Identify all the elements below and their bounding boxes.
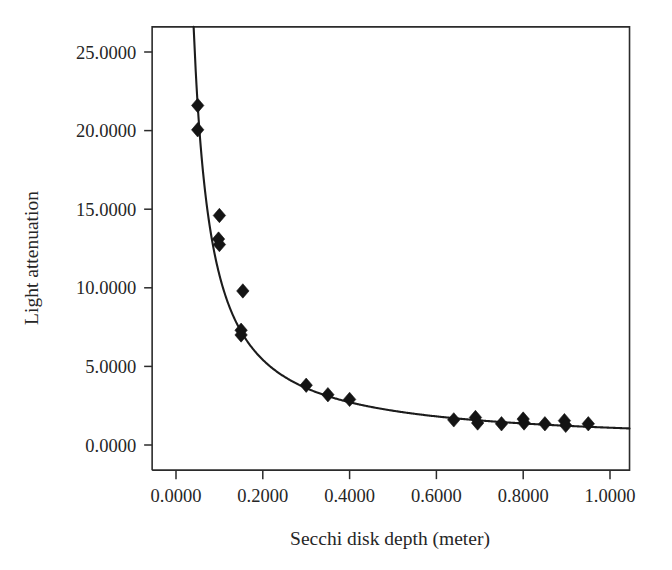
data-point-marker <box>322 387 334 401</box>
y-tick-labels: 0.00005.000010.000015.000020.000025.0000 <box>76 43 136 456</box>
y-tick-label: 5.0000 <box>85 357 136 377</box>
data-points-group <box>192 98 595 432</box>
plot-frame <box>152 27 629 470</box>
data-point-marker <box>343 392 355 406</box>
data-point-marker <box>192 123 204 137</box>
x-tick-marks <box>176 470 610 479</box>
x-tick-label: 1.0000 <box>585 486 636 506</box>
data-point-marker <box>539 417 551 431</box>
x-axis-title: Secchi disk depth (meter) <box>290 528 490 550</box>
y-tick-label: 0.0000 <box>85 436 136 456</box>
y-tick-label: 15.0000 <box>76 200 136 220</box>
y-axis-title: Light attenuation <box>21 191 42 325</box>
y-tick-label: 10.0000 <box>76 278 136 298</box>
x-tick-label: 0.4000 <box>324 486 375 506</box>
data-point-marker <box>237 284 249 298</box>
y-tick-label: 20.0000 <box>76 121 136 141</box>
x-tick-labels: 0.00000.20000.40000.60000.80001.0000 <box>151 486 636 506</box>
data-point-marker <box>448 413 460 427</box>
x-tick-label: 0.6000 <box>411 486 462 506</box>
fit-curve-group <box>194 27 630 429</box>
data-point-marker <box>213 208 225 222</box>
data-point-marker <box>192 98 204 112</box>
data-point-marker <box>495 417 507 431</box>
x-tick-label: 0.0000 <box>151 486 202 506</box>
y-tick-marks <box>144 52 152 445</box>
x-tick-label: 0.2000 <box>237 486 288 506</box>
y-tick-label: 25.0000 <box>76 43 136 63</box>
data-point-marker <box>582 417 594 431</box>
x-tick-label: 0.8000 <box>498 486 549 506</box>
scatter-plot: 0.00005.000010.000015.000020.000025.0000… <box>0 0 672 570</box>
figure-container: 0.00005.000010.000015.000020.000025.0000… <box>0 0 672 570</box>
